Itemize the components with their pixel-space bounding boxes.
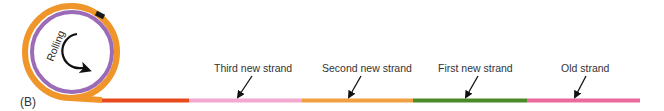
- panel-label: (B): [20, 95, 36, 109]
- third-arrow-icon: [238, 76, 252, 97]
- first-new-strand-label: First new strand: [438, 62, 513, 74]
- third-new-strand-label: Third new strand: [214, 62, 292, 74]
- second-arrow-icon: [349, 76, 361, 97]
- second-new-strand-label: Second new strand: [322, 62, 412, 74]
- purple-template-ring: [32, 12, 112, 92]
- rotation-arrow-icon: [62, 34, 88, 70]
- old-arrow-icon: [575, 76, 586, 97]
- first-arrow-icon: [466, 76, 478, 97]
- rolling-circle-replication-diagram: Rolling (B) Third new strand Second new …: [0, 0, 664, 111]
- rolling-circle: Rolling: [25, 6, 117, 100]
- old-strand-label: Old strand: [561, 62, 610, 74]
